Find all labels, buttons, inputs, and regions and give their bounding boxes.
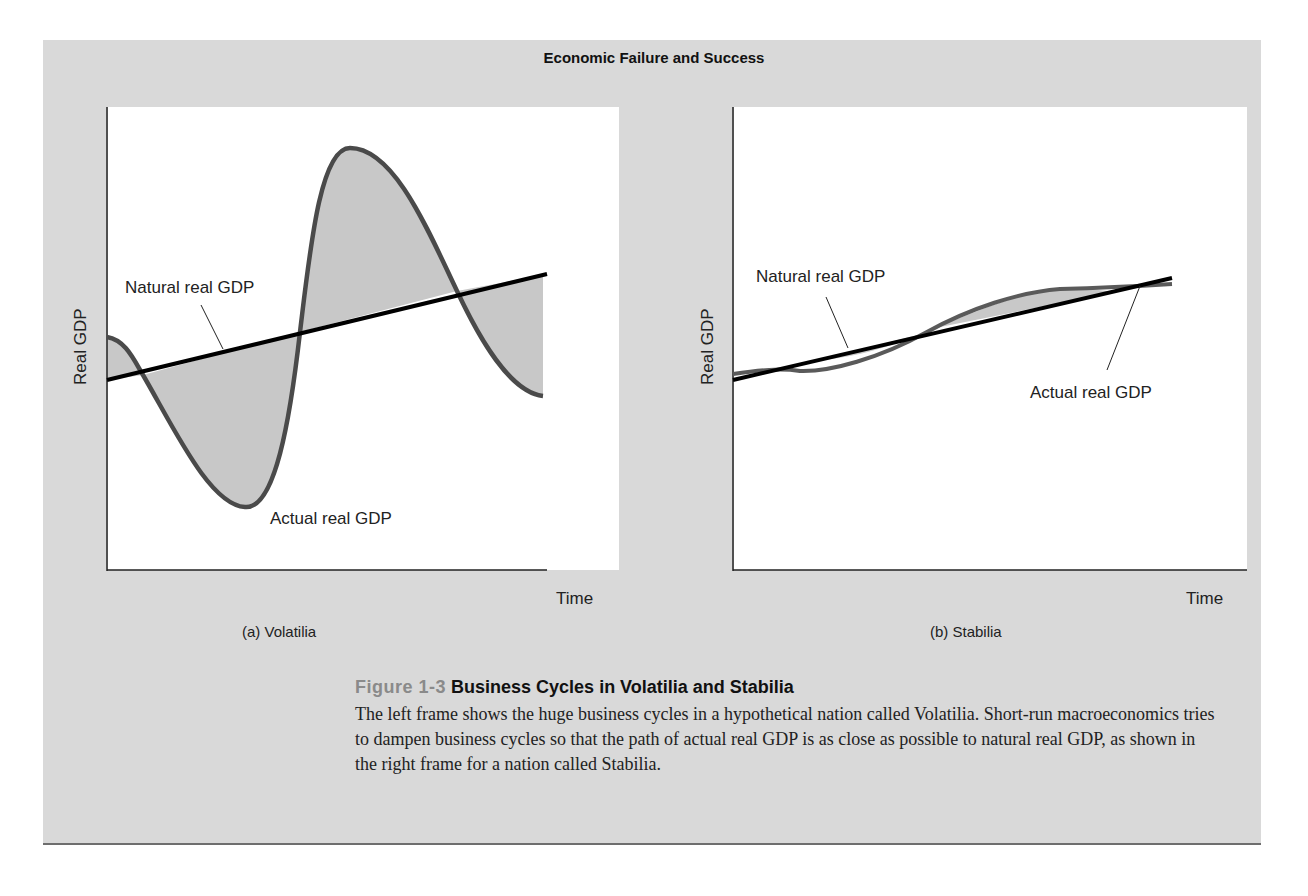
subtitle-left: (a) Volatilia: [242, 623, 316, 640]
plot-volatilia: Natural real GDP Actual real GDP Real GD…: [71, 107, 619, 608]
ylabel-right: Real GDP: [698, 308, 717, 385]
plot-stabilia: Natural real GDP Actual real GDP Real GD…: [698, 107, 1247, 608]
figure-caption: The left frame shows the huge business c…: [355, 702, 1215, 777]
ylabel-left: Real GDP: [71, 308, 90, 385]
actual-label-left: Actual real GDP: [270, 509, 392, 528]
subtitle-right: (b) Stabilia: [930, 623, 1002, 640]
xlabel-left: Time: [556, 589, 593, 608]
plot-area-right: [734, 107, 1247, 570]
actual-label-right: Actual real GDP: [1030, 383, 1152, 402]
natural-label-right: Natural real GDP: [756, 267, 885, 286]
natural-label-left: Natural real GDP: [125, 278, 254, 297]
figure-number: Figure 1-3: [355, 677, 446, 697]
figure-heading-text: Business Cycles in Volatilia and Stabili…: [451, 677, 794, 697]
xlabel-right: Time: [1186, 589, 1223, 608]
figure-heading: Figure 1-3 Business Cycles in Volatilia …: [355, 677, 794, 698]
